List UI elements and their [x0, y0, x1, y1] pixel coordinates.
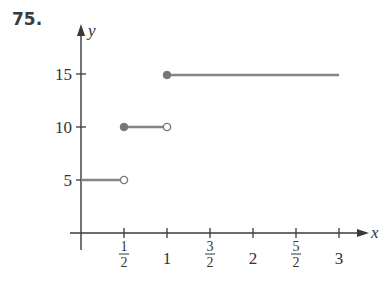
x-axis-label: x — [370, 223, 379, 242]
x-tick-label-half-num: 1 — [121, 239, 128, 254]
open-endpoint-marker — [120, 176, 127, 183]
axes: y x — [70, 21, 379, 250]
x-tick-label-3half-num: 3 — [207, 239, 214, 254]
x-axis-arrow-icon — [357, 229, 369, 237]
x-tick-label-5half-den: 2 — [293, 255, 300, 270]
y-axis-label: y — [86, 21, 96, 40]
x-ticks: 1 2 1 3 2 2 5 2 3 — [119, 228, 343, 270]
x-tick-label-1: 1 — [163, 249, 172, 268]
y-tick-label-5: 5 — [64, 171, 73, 190]
x-tick-label-3half-den: 2 — [207, 255, 214, 270]
open-endpoint-marker — [163, 123, 170, 130]
closed-endpoint-marker — [120, 123, 128, 131]
x-tick-label-3: 3 — [335, 249, 344, 268]
step-series — [81, 71, 339, 183]
x-tick-label-2: 2 — [249, 249, 258, 268]
y-axis-arrow-icon — [77, 24, 85, 36]
step-function-chart: y x 5 10 15 1 2 1 3 2 2 5 2 3 — [0, 0, 385, 288]
y-tick-label-15: 15 — [55, 65, 72, 84]
x-tick-label-5half-num: 5 — [293, 239, 300, 254]
closed-endpoint-marker — [163, 71, 171, 79]
x-tick-label-half-den: 2 — [121, 255, 128, 270]
y-tick-label-10: 10 — [55, 118, 72, 137]
